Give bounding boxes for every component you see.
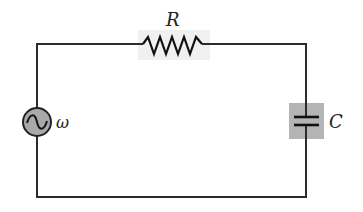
capacitor-label: C bbox=[329, 111, 343, 132]
source-label: ω bbox=[56, 113, 69, 132]
ac-source-icon bbox=[23, 108, 51, 136]
circuit-diagram: R ω C bbox=[0, 0, 363, 212]
wire-bottom bbox=[37, 125, 306, 197]
wire-top-left bbox=[37, 44, 143, 108]
resistor-label: R bbox=[165, 9, 180, 30]
wires bbox=[37, 44, 306, 197]
